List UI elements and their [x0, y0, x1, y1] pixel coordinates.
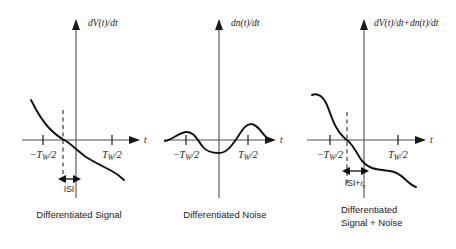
- x-axis-arrowhead: [415, 136, 426, 144]
- isi-measure: [58, 175, 81, 183]
- y-axis-arrowhead: [215, 19, 223, 30]
- x-axis-label-panel3: t: [430, 135, 433, 145]
- isi-ts-measure: [342, 167, 369, 175]
- panel-differentiated-noise: −TW/2 TW/2 dn(t)/dt t Differentiated Noi…: [164, 18, 283, 220]
- x-axis-panel3: [307, 136, 426, 144]
- x-tick-label-positive: TW/2: [238, 149, 258, 162]
- caption-panel3-line1: Differentiated: [341, 204, 397, 215]
- x-tick-label-positive: TW/2: [102, 149, 122, 162]
- x-axis-label-panel2: t: [280, 135, 283, 145]
- x-tick-label-negative: −TW/2: [30, 149, 56, 162]
- x-axis-panel2: [164, 136, 276, 144]
- caption-panel2: Differentiated Noise: [183, 209, 266, 220]
- panel-differentiated-signal-plus-noise: −TW/2 TW/2 dV(t)/dt+dn(t)/dt t ISI+ts Di…: [307, 18, 439, 228]
- isi-label: ISI: [64, 184, 74, 194]
- x-axis-label-panel1: t: [144, 135, 147, 145]
- isi-ts-label: ISI+ts: [345, 178, 366, 189]
- caption-panel1: Differentiated Signal: [36, 209, 121, 220]
- caption-panel3-line2: Signal + Noise: [341, 217, 403, 228]
- y-axis-label-panel1: dV(t)/dt: [88, 18, 118, 29]
- y-axis-panel1: [72, 19, 80, 198]
- y-axis-panel2: [215, 19, 223, 198]
- y-axis-arrowhead: [72, 19, 80, 30]
- figure-container: −TW/2 TW/2 dV(t)/dt t ISI Differentiated…: [0, 0, 456, 249]
- x-axis-arrowhead: [129, 136, 140, 144]
- x-tick-label-negative: −TW/2: [317, 149, 343, 162]
- panel-differentiated-signal: −TW/2 TW/2 dV(t)/dt t ISI Differentiated…: [22, 18, 147, 220]
- y-axis-label-panel2: dn(t)/dt: [231, 18, 260, 29]
- x-tick-label-positive: TW/2: [388, 149, 408, 162]
- y-axis-label-panel3: dV(t)/dt+dn(t)/dt: [374, 18, 439, 29]
- x-axis-panel1: [22, 136, 140, 144]
- x-tick-label-negative: −TW/2: [173, 149, 199, 162]
- y-axis-arrowhead: [360, 19, 368, 30]
